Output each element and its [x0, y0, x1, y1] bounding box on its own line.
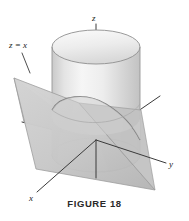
figure-container: z = x z y x FIGURE 18 [0, 0, 189, 221]
axis-label-z: z [91, 13, 96, 23]
axis-label-y: y [168, 159, 173, 169]
cylinder-top-cap [52, 30, 140, 64]
figure-illustration: z = x z y x [0, 0, 189, 221]
plane-label-z-equals-x: z = x [8, 40, 27, 50]
label-leader-line [22, 53, 30, 73]
figure-caption: FIGURE 18 [0, 198, 189, 209]
